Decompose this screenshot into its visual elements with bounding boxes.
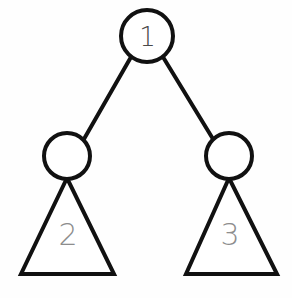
right-subtree-label: 3 xyxy=(220,217,239,252)
left-subtree-label: 2 xyxy=(58,217,77,252)
right-child-node[interactable] xyxy=(206,133,252,179)
tree-diagram-svg: 1 2 3 xyxy=(0,0,292,298)
root-node-label: 1 xyxy=(139,22,156,52)
left-child-node[interactable] xyxy=(44,133,90,179)
edge-root-to-right-child xyxy=(163,57,213,139)
tree-diagram-canvas: 1 2 3 xyxy=(0,0,292,298)
edge-group xyxy=(84,57,213,139)
edge-root-to-left-child xyxy=(84,57,131,139)
